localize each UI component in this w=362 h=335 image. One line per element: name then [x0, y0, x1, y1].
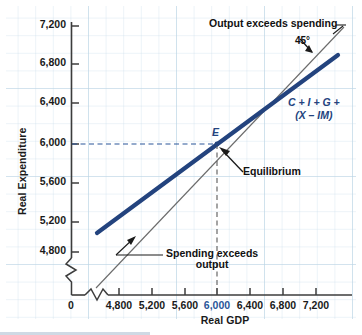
x-tick-label-7200: 7,200: [292, 300, 340, 311]
y-tick-label-6800: 6,800: [22, 57, 66, 68]
spending-exceeds-leader: [116, 236, 163, 255]
equilibrium-point-label: E: [212, 127, 219, 138]
y-tick-label-6400: 6,400: [22, 96, 66, 107]
y-tick-label-6000: 6,000: [22, 137, 66, 148]
equilibrium-point-marker: [215, 142, 220, 147]
y-tick-label-5600: 5,600: [22, 176, 66, 187]
y-axis-title: Real Expenditure: [17, 128, 28, 215]
equilibrium-callout-arrow: [219, 147, 243, 172]
y-tick-marks: [72, 26, 80, 252]
annotation-45-degree: 45°: [295, 36, 310, 47]
y-tick-label-7200: 7,200: [22, 19, 66, 30]
y-tick-label-4800: 4,800: [22, 245, 66, 256]
chart-figure: 7,200 6,800 6,400 6,000 5,600 5,200 4,80…: [0, 0, 362, 335]
expenditure-label-line2: (X – IM): [295, 109, 332, 121]
plot-area: [0, 0, 362, 335]
annotation-spending-line1: Spending exceeds: [166, 247, 258, 259]
x-axis-break-icon: [85, 289, 108, 300]
annotation-equilibrium: Equilibrium: [243, 166, 301, 177]
expenditure-line-label: C + I + G + (X – IM): [288, 96, 340, 122]
y-tick-label-5200: 5,200: [22, 215, 66, 226]
y-axis-break-icon: [66, 258, 76, 295]
annotation-output-exceeds-spending: Output exceeds spending: [209, 18, 337, 29]
annotation-spending-line2: output: [196, 258, 229, 270]
x-tick-label-0: 0: [57, 300, 85, 311]
annotation-spending-exceeds-output: Spending exceeds output: [166, 248, 258, 271]
expenditure-label-line1: C + I + G +: [288, 96, 340, 108]
x-axis-title: Real GDP: [185, 315, 265, 326]
